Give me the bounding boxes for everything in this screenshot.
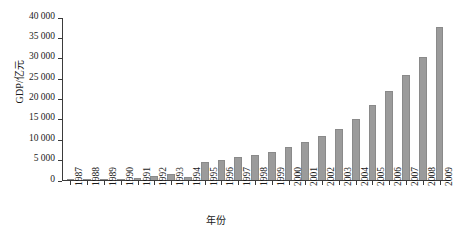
bar (318, 136, 326, 180)
x-axis-tick (389, 181, 390, 185)
x-axis-tick-label: 2001 (309, 167, 319, 186)
x-axis-tick (406, 181, 407, 185)
x-axis-tick (423, 181, 424, 185)
x-axis-tick (305, 181, 306, 185)
x-axis-tick (188, 181, 189, 185)
x-axis-tick-label: 2009 (444, 167, 454, 186)
x-axis-tick (272, 181, 273, 185)
x-axis-tick (322, 181, 323, 185)
x-axis-tick-label: 1995 (209, 167, 219, 186)
x-axis-tick-label: 2007 (410, 167, 420, 186)
x-axis-tick-label: 1996 (225, 167, 235, 186)
x-axis-tick-label: 2003 (343, 167, 353, 186)
x-axis-tick-label: 1992 (158, 167, 168, 186)
bar (402, 75, 410, 180)
x-axis-tick-label: 1998 (259, 167, 269, 186)
x-axis-tick-label: 1999 (276, 167, 286, 186)
x-axis-tick (339, 181, 340, 185)
x-axis-tick (171, 181, 172, 185)
x-axis-tick-label: 1994 (192, 167, 202, 186)
x-axis-tick-label: 1997 (242, 167, 252, 186)
x-axis-tick (356, 181, 357, 185)
bar (167, 174, 175, 180)
x-axis-tick (154, 181, 155, 185)
y-axis-tick: 35 000 (58, 38, 62, 39)
bar (184, 177, 192, 180)
y-axis-tick-label: 25 000 (29, 72, 55, 82)
x-axis-tick (205, 181, 206, 185)
y-axis-title: GDP/亿元 (11, 32, 26, 132)
y-axis-tick-label: 20 000 (29, 92, 55, 102)
plot-area: 05 00010 00015 00020 00025 00030 00035 0… (62, 18, 448, 181)
x-axis-tick-label: 1988 (91, 167, 101, 186)
y-axis-tick: 5 000 (58, 160, 62, 161)
x-axis-tick (372, 181, 373, 185)
x-axis-tick-label: 2000 (293, 167, 303, 186)
y-axis-tick-label: 0 (50, 174, 55, 184)
y-axis-line (62, 18, 63, 181)
y-axis-tick: 0 (58, 181, 62, 182)
y-axis-tick-label: 30 000 (29, 51, 55, 61)
x-axis-title: 年份 (206, 212, 226, 227)
x-axis-tick-label: 1989 (108, 167, 118, 186)
x-axis-tick-label: 2002 (326, 167, 336, 186)
x-axis-tick (121, 181, 122, 185)
x-axis-tick (87, 181, 88, 185)
y-axis-tick: 30 000 (58, 58, 62, 59)
gdp-bar-chart: GDP/亿元 05 00010 00015 00020 00025 00030 … (0, 0, 457, 232)
x-axis-tick-label: 1993 (175, 167, 185, 186)
x-axis-tick (104, 181, 105, 185)
y-axis-tick: 20 000 (58, 99, 62, 100)
bar (385, 91, 393, 180)
x-axis-tick-label: 2005 (376, 167, 386, 186)
bar (251, 155, 259, 180)
x-axis-tick (440, 181, 441, 185)
bar (83, 179, 91, 180)
x-axis-tick (238, 181, 239, 185)
x-axis-tick (70, 181, 71, 185)
bar (100, 179, 108, 180)
bar (419, 57, 427, 180)
y-axis-tick-label: 10 000 (29, 133, 55, 143)
x-axis-tick-label: 2006 (393, 167, 403, 186)
x-axis-tick-label: 1991 (142, 167, 152, 186)
y-axis-tick-label: 5 000 (34, 153, 55, 163)
x-axis-tick (221, 181, 222, 185)
y-axis-tick: 10 000 (58, 140, 62, 141)
bar (335, 129, 343, 180)
x-axis-tick (255, 181, 256, 185)
y-axis-tick: 15 000 (58, 119, 62, 120)
y-axis-tick: 25 000 (58, 79, 62, 80)
x-axis-tick-label: 2008 (427, 167, 437, 186)
bar (234, 157, 242, 180)
x-axis-tick (289, 181, 290, 185)
bar (436, 27, 444, 180)
x-axis-tick-label: 2004 (360, 167, 370, 186)
y-axis-tick: 40 000 (58, 18, 62, 19)
y-axis-tick-label: 15 000 (29, 112, 55, 122)
x-axis-tick-label: 1990 (125, 167, 135, 186)
bar (268, 152, 276, 180)
x-axis-tick-label: 1987 (74, 167, 84, 186)
y-axis-tick-label: 40 000 (29, 11, 55, 21)
y-axis-tick-label: 35 000 (29, 31, 55, 41)
x-axis-tick (138, 181, 139, 185)
bar (117, 179, 125, 180)
